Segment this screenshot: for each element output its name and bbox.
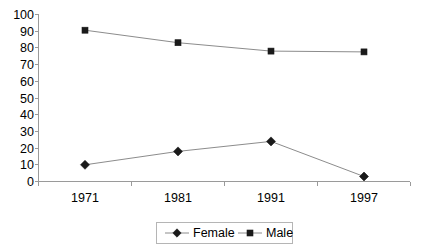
- y-tick-label: 30: [20, 125, 34, 139]
- legend-male-square-icon: [247, 230, 253, 236]
- legend-female-label: Female: [193, 226, 235, 240]
- data-point-male: [82, 27, 88, 33]
- x-tick-label: 1971: [71, 191, 99, 205]
- series-female-line: [85, 141, 364, 176]
- legend-male-label: Male: [266, 226, 293, 240]
- y-tick-label: 80: [20, 41, 34, 55]
- y-tick-label: 100: [13, 8, 34, 22]
- y-tick-label: 60: [20, 75, 34, 89]
- series-male-line: [85, 30, 364, 52]
- y-tick-label: 10: [20, 158, 34, 172]
- y-axis-ticks: [35, 15, 39, 182]
- chart-legend: Female Male: [157, 223, 294, 244]
- data-point-male: [361, 49, 367, 55]
- data-point-male: [175, 40, 181, 46]
- series-male: [82, 27, 367, 55]
- chart-canvas: 100 90 80 70 60 50 40 30 20 10 0: [0, 0, 422, 252]
- y-tick-label: 20: [20, 142, 34, 156]
- x-axis-ticks: [39, 182, 411, 187]
- data-point-female: [360, 172, 369, 181]
- data-point-male: [268, 48, 274, 54]
- y-axis-tick-labels: 100 90 80 70 60 50 40 30 20 10 0: [13, 8, 34, 189]
- y-tick-label: 90: [20, 25, 34, 39]
- x-tick-label: 1991: [257, 191, 285, 205]
- x-axis-tick-labels: 1971 1981 1991 1997: [71, 191, 378, 205]
- x-tick-label: 1981: [164, 191, 192, 205]
- y-tick-label: 0: [27, 175, 34, 189]
- x-tick-label: 1997: [350, 191, 378, 205]
- series-female: [81, 137, 369, 181]
- y-tick-label: 50: [20, 92, 34, 106]
- data-point-female: [81, 160, 90, 169]
- y-tick-label: 40: [20, 108, 34, 122]
- data-point-female: [267, 137, 276, 146]
- y-tick-label: 70: [20, 58, 34, 72]
- data-point-female: [174, 147, 183, 156]
- line-chart: 100 90 80 70 60 50 40 30 20 10 0: [0, 0, 422, 252]
